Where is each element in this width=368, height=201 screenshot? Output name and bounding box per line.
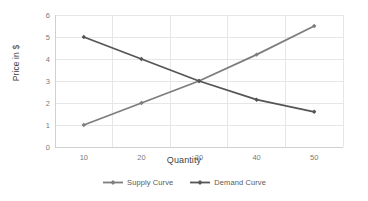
y-tick-label: 6 [36,11,50,20]
data-point [254,98,258,102]
chart-legend: Supply CurveDemand Curve [0,178,368,187]
plot-area: 6543210 1020304050 Price in $ [0,0,368,172]
legend-item-supply[interactable]: Supply Curve [102,178,173,187]
legend-item-demand[interactable]: Demand Curve [189,178,266,187]
data-point [312,110,316,114]
x-axis-title: Quantity [0,155,368,165]
legend-label: Supply Curve [127,178,173,187]
y-tick-label: 1 [36,121,50,130]
y-tick-label: 3 [36,77,50,86]
y-tick-label: 5 [36,33,50,42]
legend-line-marker-icon [102,178,124,187]
y-tick-label: 4 [36,55,50,64]
y-tick-label: 0 [36,143,50,152]
y-axis-title: Price in $ [11,23,21,103]
y-tick-label: 2 [36,99,50,108]
legend-line-marker-icon [189,178,211,187]
series-demand [82,35,317,114]
legend-label: Demand Curve [214,178,266,187]
series-supply [82,24,317,127]
supply-demand-line-chart: 6543210 1020304050 Price in $ Quantity S… [0,0,368,201]
series-lines [82,24,317,127]
plot-canvas [0,0,368,172]
